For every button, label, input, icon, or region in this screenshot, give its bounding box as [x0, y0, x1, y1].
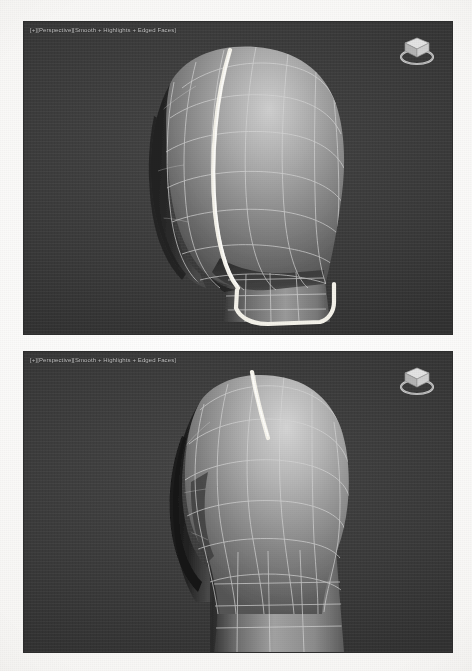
model-stage-bottom — [24, 352, 452, 652]
view-cube-body — [405, 368, 429, 387]
view-cube-top[interactable] — [396, 30, 438, 70]
view-cube-bottom[interactable] — [396, 360, 438, 400]
viewport-label-top[interactable]: [+][Perspective][Smooth + Highlights + E… — [30, 26, 176, 34]
viewport-label-bottom[interactable]: [+][Perspective][Smooth + Highlights + E… — [30, 356, 176, 364]
viewport-bottom[interactable]: [+][Perspective][Smooth + Highlights + E… — [24, 352, 452, 652]
head-mesh-surface — [166, 47, 344, 292]
scanned-page: [+][Perspective][Smooth + Highlights + E… — [0, 0, 472, 671]
viewport-top[interactable]: [+][Perspective][Smooth + Highlights + E… — [24, 22, 452, 334]
model-stage-top — [24, 22, 452, 334]
view-cube-body — [405, 38, 429, 57]
